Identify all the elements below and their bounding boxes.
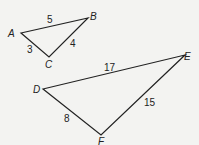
side-label-de: 17	[104, 62, 116, 73]
side-label-bc: 4	[70, 38, 76, 49]
triangle-abc: A B C 5 4 3	[7, 11, 97, 70]
vertex-label-a: A	[7, 28, 15, 39]
side-label-ab: 5	[47, 14, 53, 25]
vertex-label-d: D	[33, 84, 40, 95]
triangle-def: D E F 17 15 8	[33, 51, 191, 145]
side-label-ac: 3	[27, 44, 33, 55]
side-label-df: 8	[64, 113, 70, 124]
similar-triangles-diagram: A B C 5 4 3 D E F 17 15 8	[0, 0, 199, 145]
vertex-label-e: E	[184, 51, 191, 62]
vertex-label-f: F	[98, 136, 105, 145]
vertex-label-c: C	[45, 59, 53, 70]
vertex-label-b: B	[90, 11, 97, 22]
side-label-ef: 15	[144, 97, 156, 108]
